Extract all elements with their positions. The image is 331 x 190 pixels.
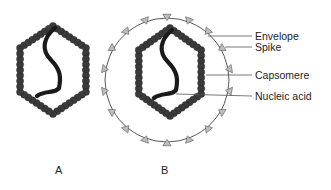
- nucleic-acid-leader-line: [176, 94, 252, 96]
- spike-glycoprotein: [122, 27, 129, 35]
- spike-glycoprotein: [163, 139, 171, 145]
- spike-glycoprotein: [163, 14, 171, 20]
- spike-glycoprotein: [226, 87, 233, 95]
- spike-glycoprotein: [205, 126, 212, 134]
- spike-glycoprotein: [101, 64, 108, 72]
- label-nucleic-acid: Nucleic acid: [255, 90, 312, 102]
- naked-virus-a: [16, 22, 89, 117]
- label-spike: Spike: [255, 41, 281, 53]
- spike-glycoprotein: [101, 87, 108, 95]
- nucleic-acid-strand: [37, 28, 60, 96]
- enveloped-virus-b: [101, 14, 232, 146]
- leader-lines: [176, 36, 252, 96]
- virus-structure-diagram: Envelope Spike Capsomere Nucleic acid A …: [0, 0, 331, 190]
- spike-glycoprotein: [205, 27, 212, 35]
- spike-glycoprotein: [226, 64, 233, 72]
- panel-label-a: A: [55, 164, 62, 176]
- panel-label-b: B: [161, 164, 168, 176]
- label-capsomere: Capsomere: [255, 69, 309, 81]
- spike-glycoprotein: [122, 126, 129, 134]
